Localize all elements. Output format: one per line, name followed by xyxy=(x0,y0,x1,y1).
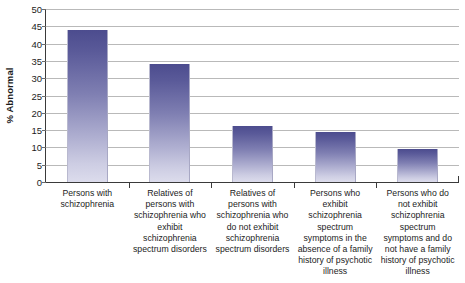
y-tick-mark xyxy=(42,44,46,45)
y-tick-mark xyxy=(42,61,46,62)
y-axis-title-label: % Abnormal xyxy=(4,67,15,123)
y-tick-label: 10 xyxy=(31,142,42,153)
y-tick-mark xyxy=(42,147,46,148)
gridline xyxy=(46,182,459,183)
bar-chart: % Abnormal 50454035302520151050 Persons … xyxy=(0,0,465,283)
gridline xyxy=(46,61,459,62)
x-axis-category-label: Persons who exhibit schizophrenia spectr… xyxy=(297,188,374,278)
bar xyxy=(149,64,190,182)
y-tick-mark xyxy=(42,26,46,27)
y-axis-title: % Abnormal xyxy=(0,0,18,190)
gridline xyxy=(46,44,459,45)
y-tick-label: 45 xyxy=(31,21,42,32)
y-tick-label: 25 xyxy=(31,90,42,101)
plot-area xyxy=(46,9,459,182)
y-tick-mark xyxy=(42,9,46,10)
y-tick-mark xyxy=(42,96,46,97)
gridline xyxy=(46,113,459,114)
bar xyxy=(315,132,356,182)
y-axis-tick-labels: 50454035302520151050 xyxy=(18,9,42,182)
x-axis-category-labels: Persons with schizophreniaRelatives of p… xyxy=(46,188,459,283)
x-axis-category-label: Relatives of persons with schizophrenia … xyxy=(214,188,291,255)
y-tick-label: 15 xyxy=(31,125,42,136)
bar xyxy=(232,126,273,182)
x-axis-category-label: Persons who do not exhibit schizophrenia… xyxy=(379,188,456,278)
y-tick-mark xyxy=(42,182,46,183)
y-tick-mark xyxy=(42,130,46,131)
gridline xyxy=(46,96,459,97)
y-tick-label: 40 xyxy=(31,38,42,49)
bar xyxy=(397,149,438,182)
bar xyxy=(67,30,108,182)
y-tick-label: 20 xyxy=(31,107,42,118)
y-tick-mark xyxy=(42,113,46,114)
y-tick-label: 50 xyxy=(31,4,42,15)
y-tick-mark xyxy=(42,165,46,166)
gridline xyxy=(46,26,459,27)
y-tick-mark xyxy=(42,78,46,79)
x-axis-category-label: Relatives of persons with schizophrenia … xyxy=(132,188,209,255)
y-tick-label: 30 xyxy=(31,73,42,84)
y-tick-label: 35 xyxy=(31,55,42,66)
gridline xyxy=(46,9,459,10)
x-axis-category-label: Persons with schizophrenia xyxy=(49,188,126,210)
gridline xyxy=(46,78,459,79)
